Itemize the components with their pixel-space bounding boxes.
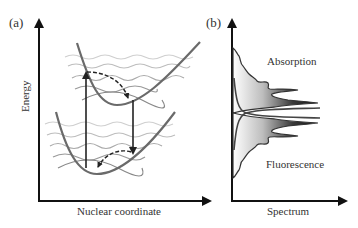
panel-a-label: (a)	[9, 15, 23, 31]
ground-state-wavefunctions	[45, 122, 175, 176]
ground-relaxation-arrow	[98, 151, 131, 167]
spectrum-axis-label: Spectrum	[267, 205, 309, 217]
diagram-canvas	[0, 0, 358, 228]
fluorescence-annotation: Fluorescence	[266, 158, 324, 170]
potential-curves	[56, 42, 200, 174]
excited-state-curve	[77, 42, 200, 105]
energy-axis-label: Energy	[19, 80, 31, 112]
ground-state-curve	[56, 112, 175, 174]
panel-b-label: (b)	[206, 15, 221, 31]
absorption-annotation: Absorption	[267, 55, 317, 67]
nuclear-coordinate-axis-label: Nuclear coordinate	[77, 205, 161, 217]
panel-a-axes	[38, 20, 210, 201]
